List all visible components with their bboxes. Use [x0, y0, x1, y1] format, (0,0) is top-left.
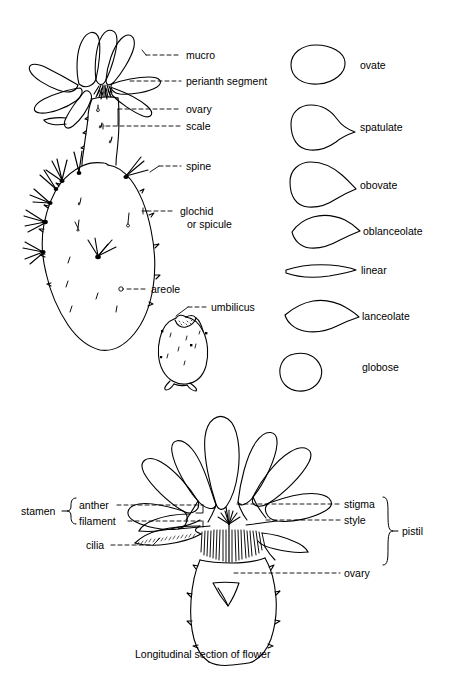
- label-pistil: pistil: [402, 525, 423, 537]
- label-stamen: stamen: [21, 505, 55, 517]
- label-filament: filament: [79, 515, 116, 527]
- figure-caption: Longitudinal section of flower: [135, 648, 270, 660]
- figure-page: mucro perianth segment ovary scale spine…: [0, 0, 458, 679]
- label-ovary-bottom: ovary: [344, 567, 370, 579]
- label-stigma: stigma: [344, 498, 375, 510]
- bottom-figure-drawing: [0, 0, 458, 679]
- label-cilia: cilia: [86, 539, 104, 551]
- label-anther: anther: [79, 499, 109, 511]
- label-style: style: [344, 514, 366, 526]
